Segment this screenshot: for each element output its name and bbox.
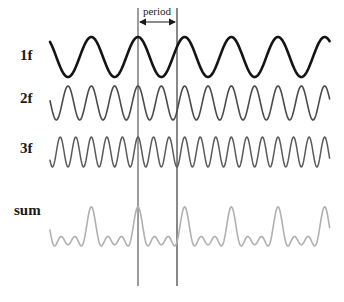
period-arrow [139, 19, 176, 26]
waveform-trace-2f [50, 86, 330, 120]
series-label-3f: 3f [20, 140, 33, 157]
series-label-1f: 1f [20, 47, 33, 64]
waveform-trace-sum [50, 207, 330, 246]
period-label: period [137, 5, 177, 17]
waveform-traces [50, 37, 330, 246]
waveform-trace-1f [50, 37, 330, 77]
period-arrow-head-left [139, 19, 146, 26]
series-label-sum: sum [14, 202, 41, 219]
period-marker-lines [138, 8, 177, 286]
series-label-2f: 2f [20, 90, 33, 107]
waveform-plot [0, 0, 344, 302]
waveform-trace-3f [50, 137, 330, 167]
harmonic-waveform-figure: period 1f 2f 3f sum [0, 0, 344, 302]
period-arrow-head-right [169, 19, 176, 26]
